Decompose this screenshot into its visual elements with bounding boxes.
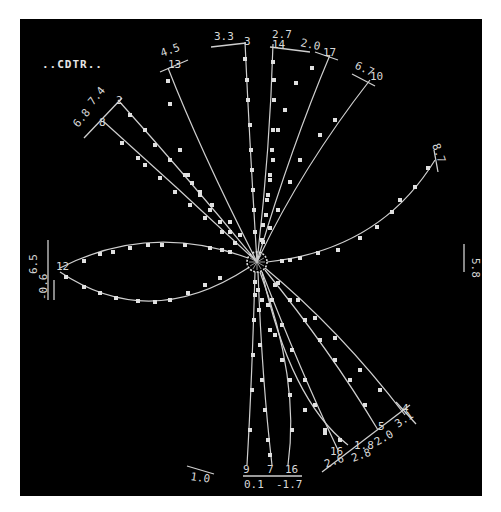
value-label: 5.8 [469, 258, 482, 278]
ray-node [114, 296, 118, 300]
ray-node [426, 166, 430, 170]
value-label: 8 [99, 116, 106, 129]
ray-node [268, 226, 272, 230]
ray-12b [60, 268, 248, 301]
ray-node [250, 388, 254, 392]
ray-node [143, 163, 147, 167]
ray-node [168, 298, 172, 302]
value-label: 4.5 [159, 41, 182, 60]
center-hub [247, 252, 267, 272]
value-label: 16 [285, 463, 298, 476]
ray-node [120, 141, 124, 145]
ray-node [210, 203, 214, 207]
value-label: 7 [267, 463, 274, 476]
ray-5 [265, 270, 378, 430]
ray-node [276, 128, 280, 132]
ray-node [358, 236, 362, 240]
ray-node [233, 241, 237, 245]
ray-node [375, 225, 379, 229]
ray-node [203, 283, 207, 287]
ray-node [348, 378, 352, 382]
value-label: 14 [272, 38, 286, 51]
ray-node [270, 148, 274, 152]
ray-9 [247, 272, 255, 465]
ray-node [333, 336, 337, 340]
ray-node [160, 243, 164, 247]
ray-node [263, 408, 267, 412]
ray-node [268, 178, 272, 182]
ray-node [198, 193, 202, 197]
ray-node [271, 60, 275, 64]
ray-node [153, 143, 157, 147]
ray-node [64, 275, 68, 279]
ray-node [378, 388, 382, 392]
ray-node [238, 233, 242, 237]
ray-node [264, 213, 268, 217]
ray-node [271, 158, 275, 162]
value-label: 3.3 [214, 30, 234, 43]
ray-node [256, 288, 260, 292]
ray-node [82, 259, 86, 263]
ray-node [251, 353, 255, 357]
value-label: 10 [370, 70, 383, 83]
ray-12 [60, 242, 248, 268]
value-label: 7.4 [85, 84, 108, 108]
ray-node [261, 223, 265, 227]
ray-node [252, 318, 256, 322]
ray-node [288, 258, 292, 262]
ray-node [363, 403, 367, 407]
value-label: 12 [56, 260, 69, 273]
ray-node [268, 453, 272, 457]
ray-node [288, 298, 292, 302]
ray-node [183, 243, 187, 247]
value-label: 3.1 [392, 408, 416, 430]
ray-node [280, 259, 284, 263]
ray-node [280, 323, 284, 327]
ray-node [303, 408, 307, 412]
ray-node [261, 240, 265, 244]
ray-node [208, 246, 212, 250]
ray-node [218, 220, 222, 224]
diagram-title: ..CDTR.. [42, 58, 103, 71]
value-label: 13 [168, 58, 181, 71]
ray-node [323, 431, 327, 435]
value-label: 1.0 [190, 470, 211, 486]
ray-8 [103, 121, 257, 262]
ray-node [280, 358, 284, 362]
ray-node [303, 318, 307, 322]
ray-node [146, 243, 150, 247]
ray-node [358, 368, 362, 372]
ray-node [265, 198, 269, 202]
ray-node [248, 428, 252, 432]
ray-node [333, 118, 337, 122]
ray-node [310, 66, 314, 70]
ray-node [253, 293, 257, 297]
ray-node [168, 102, 172, 106]
ray-node [253, 280, 257, 284]
ray-node [294, 81, 298, 85]
ray-node [243, 57, 247, 61]
ray-node [98, 291, 102, 295]
ray-node [288, 393, 292, 397]
value-label: -0.6 [37, 274, 50, 301]
radial-network-diagram: ..CDTR..7.426.884.5133.332.7142.0176.710… [0, 0, 501, 512]
ray-node [258, 343, 262, 347]
ray-node [260, 378, 264, 382]
ray-node [251, 188, 255, 192]
ray-node [288, 180, 292, 184]
ray-node [245, 78, 249, 82]
ray-node [250, 168, 254, 172]
ray-node [220, 248, 224, 252]
ray-node [128, 246, 132, 250]
ray-node [268, 328, 272, 332]
ray-node [186, 173, 190, 177]
ray-node [273, 333, 277, 337]
ray-4 [265, 268, 405, 415]
ray-node [413, 185, 417, 189]
ray-node [298, 256, 302, 260]
ray-node [290, 428, 294, 432]
value-label: 9 [243, 463, 250, 476]
value-label: 3 [244, 35, 251, 48]
ray-node [257, 308, 261, 312]
ray-node [266, 438, 270, 442]
